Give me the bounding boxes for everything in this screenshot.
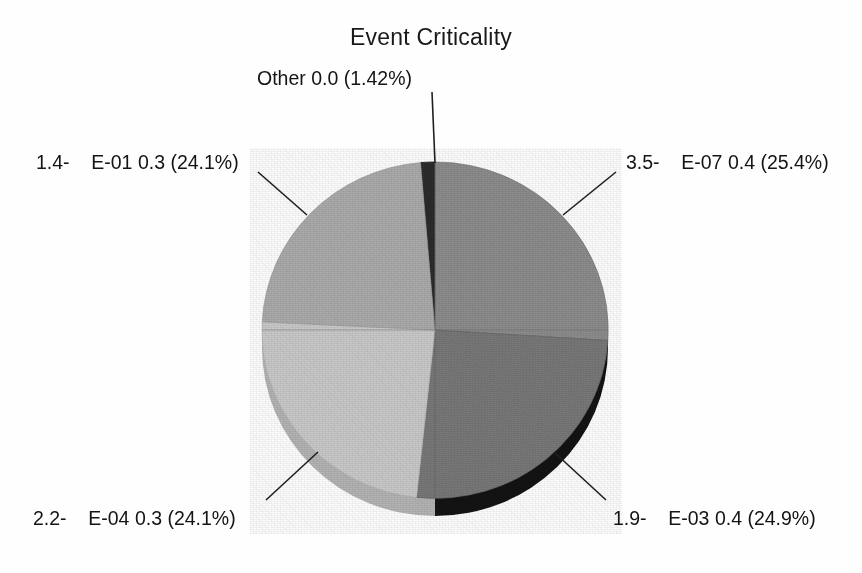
pie-slice-e01[interactable] xyxy=(262,163,435,330)
leader-line-e04 xyxy=(266,452,318,500)
leader-line-e03 xyxy=(554,452,606,500)
slice-label-e01: 1.4- E-01 0.3 (24.1%) xyxy=(36,152,239,172)
pie-slice-e03[interactable] xyxy=(417,330,608,498)
leader-line-other xyxy=(432,92,435,163)
pie-slice-e07[interactable] xyxy=(435,162,608,341)
slice-label-e07: 3.5- E-07 0.4 (25.4%) xyxy=(626,152,829,172)
pie-chart-graphic xyxy=(0,0,862,573)
leader-line-e01 xyxy=(258,172,307,215)
slice-label-other: Other 0.0 (1.42%) xyxy=(257,68,412,88)
pie-slice-e04[interactable] xyxy=(262,322,435,498)
leader-line-e07 xyxy=(563,172,616,215)
slice-label-e04: 2.2- E-04 0.3 (24.1%) xyxy=(33,508,236,528)
slice-label-e03: 1.9- E-03 0.4 (24.9%) xyxy=(613,508,816,528)
chart-page: Event Criticality xyxy=(0,0,862,573)
